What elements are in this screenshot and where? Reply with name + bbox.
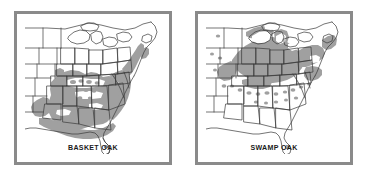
map-label-swamp-oak: SWAMP OAK: [207, 143, 341, 152]
map-panel-swamp-oak: SWAMP OAK: [195, 11, 353, 165]
range-map-basket-oak: [17, 14, 169, 162]
species-range-map-figure: BASKET OAK: [0, 0, 367, 179]
map-label-basket-oak: BASKET OAK: [26, 143, 160, 152]
range-map-swamp-oak: [198, 14, 350, 162]
map-panel-basket-oak: BASKET OAK: [14, 11, 172, 165]
